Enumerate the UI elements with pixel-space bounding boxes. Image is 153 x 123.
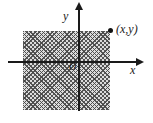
y-axis-arrow-icon — [75, 2, 83, 10]
x-axis-arrow-icon — [136, 58, 144, 66]
x-axis-label: x — [130, 64, 135, 76]
origin-label: O — [69, 62, 76, 72]
shaded-region — [23, 31, 110, 110]
point-dot — [108, 28, 113, 33]
coordinate-plane-figure: y x O (x,y) — [0, 0, 153, 123]
y-axis — [78, 9, 80, 111]
point-label: (x,y) — [116, 23, 138, 35]
y-axis-label: y — [63, 10, 68, 22]
